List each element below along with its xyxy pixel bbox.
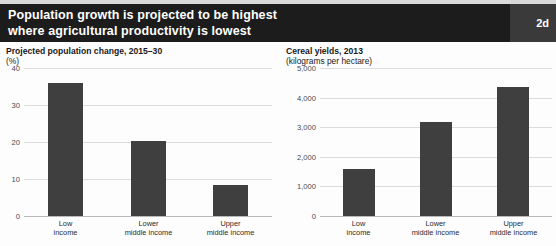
x-axis-tick-label-line: income (24, 229, 107, 238)
figure-badge-label: 2d (536, 17, 549, 29)
y-axis-tick-label: 2,000 (284, 153, 316, 162)
figure-header: Population growth is projected to be hig… (0, 4, 556, 42)
y-axis-tick-label: 4,000 (284, 94, 316, 103)
bar (497, 87, 529, 216)
x-axis-tick-label-line: middle income (107, 229, 190, 238)
headline-line-1: Population growth is projected to be hig… (8, 8, 277, 22)
axis-baseline (24, 216, 272, 217)
x-axis-tick-label: Lowermiddle income (397, 220, 474, 237)
figure-container: Population growth is projected to be hig… (0, 0, 556, 246)
y-axis-tick-label: 10 (2, 175, 20, 184)
x-axis-tick-label: Lowincome (320, 220, 397, 237)
y-axis-tick-label: 5,000 (284, 64, 316, 73)
bar (420, 122, 452, 216)
y-axis-tick-label: 0 (2, 212, 20, 221)
x-axis-tick-label: Lowincome (24, 220, 107, 237)
x-axis-tick-label-line: middle income (189, 229, 272, 238)
bar (213, 185, 248, 216)
gridline (24, 68, 272, 69)
y-axis-tick-label: 1,000 (284, 182, 316, 191)
figure-headline: Population growth is projected to be hig… (8, 8, 448, 39)
axis-baseline (320, 216, 552, 217)
y-axis-tick-label: 20 (2, 138, 20, 147)
y-axis-tick-label: 40 (2, 64, 20, 73)
x-axis-tick-label: Lowermiddle income (107, 220, 190, 237)
x-axis-tick-label: Uppermiddle income (475, 220, 552, 237)
chart-panel-cereal-yields: Cereal yields, 2013 (kilograms per hecta… (280, 44, 556, 246)
chart-title: Cereal yields, 2013 (286, 46, 363, 56)
y-axis-tick-label: 30 (2, 101, 20, 110)
bar (48, 83, 83, 216)
x-axis-tick-label-line: middle income (475, 229, 552, 238)
plot-area: 010203040LowincomeLowermiddle incomeUppe… (24, 68, 272, 216)
headline-line-2: where agricultural productivity is lowes… (8, 24, 448, 40)
x-axis-tick-label-line: income (320, 229, 397, 238)
plot-area: 01,0002,0003,0004,0005,000LowincomeLower… (320, 68, 552, 216)
y-axis-tick-label: 0 (284, 212, 316, 221)
chart-title: Projected population change, 2015–30 (6, 46, 162, 56)
bar (343, 169, 375, 216)
y-axis-tick-label: 3,000 (284, 123, 316, 132)
figure-badge-panel: 2d (510, 4, 556, 42)
chart-panel-population-change: Projected population change, 2015–30 (%)… (0, 44, 276, 246)
gridline (320, 68, 552, 69)
x-axis-tick-label: Uppermiddle income (189, 220, 272, 237)
bar (131, 141, 166, 216)
x-axis-tick-label-line: middle income (397, 229, 474, 238)
